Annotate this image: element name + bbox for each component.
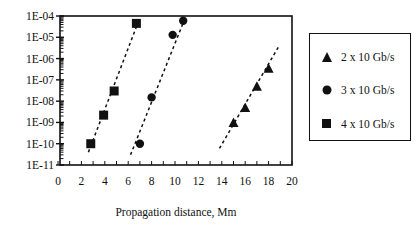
fit-lines bbox=[88, 17, 279, 155]
svg-text:1E-05: 1E-05 bbox=[26, 31, 54, 43]
legend-label: 3 x 10 Gb/s bbox=[341, 84, 394, 96]
x-axis-label: Propagation distance, Mm bbox=[60, 206, 292, 218]
y-axis: 1E-111E-101E-091E-081E-071E-061E-051E-04 bbox=[26, 10, 64, 171]
svg-text:12: 12 bbox=[193, 175, 205, 187]
svg-text:1E-09: 1E-09 bbox=[26, 116, 54, 128]
svg-text:10: 10 bbox=[169, 175, 181, 187]
legend-item-3x10: 3 x 10 Gb/s bbox=[322, 83, 394, 97]
svg-text:2: 2 bbox=[79, 175, 85, 187]
svg-text:20: 20 bbox=[286, 175, 298, 187]
svg-text:14: 14 bbox=[216, 175, 228, 187]
circle-marker-icon bbox=[322, 85, 332, 95]
svg-text:1E-07: 1E-07 bbox=[26, 74, 54, 86]
svg-text:1E-06: 1E-06 bbox=[26, 53, 54, 65]
legend-item-4x10: 4 x 10 Gb/s bbox=[322, 117, 394, 131]
svg-text:16: 16 bbox=[239, 175, 251, 187]
legend: 2 x 10 Gb/s 3 x 10 Gb/s 4 x 10 Gb/s bbox=[309, 33, 411, 141]
svg-text:1E-11: 1E-11 bbox=[26, 159, 54, 171]
svg-text:1E-04: 1E-04 bbox=[26, 10, 54, 22]
svg-text:18: 18 bbox=[263, 175, 275, 187]
svg-text:1E-10: 1E-10 bbox=[26, 138, 54, 150]
svg-text:0: 0 bbox=[55, 175, 61, 187]
legend-label: 2 x 10 Gb/s bbox=[341, 51, 394, 63]
square-marker-icon bbox=[322, 119, 332, 129]
svg-text:1E-08: 1E-08 bbox=[26, 95, 54, 107]
legend-label: 4 x 10 Gb/s bbox=[341, 118, 394, 130]
svg-text:8: 8 bbox=[149, 175, 155, 187]
triangle-marker-icon bbox=[322, 52, 332, 62]
svg-text:4: 4 bbox=[102, 175, 108, 187]
svg-text:6: 6 bbox=[125, 175, 131, 187]
legend-item-2x10: 2 x 10 Gb/s bbox=[322, 50, 394, 64]
